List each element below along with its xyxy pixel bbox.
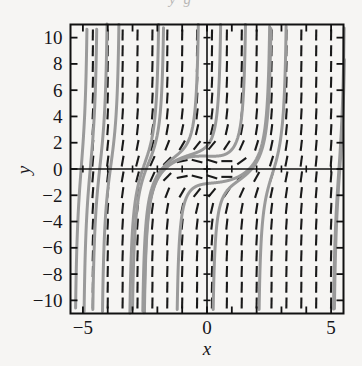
y-tick-label: −4 xyxy=(42,211,63,232)
slope-mark xyxy=(122,108,123,119)
slope-mark xyxy=(182,234,183,245)
slope-mark xyxy=(107,108,108,119)
slope-mark xyxy=(331,171,332,182)
slope-mark xyxy=(181,124,183,135)
slope-mark xyxy=(122,187,123,198)
slope-mark xyxy=(270,187,272,198)
slope-mark xyxy=(286,140,288,151)
slope-mark xyxy=(212,234,213,245)
slope-mark xyxy=(192,176,203,179)
slope-mark xyxy=(207,159,217,162)
slope-mark xyxy=(107,124,108,135)
slope-mark xyxy=(256,203,258,214)
slope-mark xyxy=(270,156,273,167)
slope-mark xyxy=(301,219,302,230)
slope-mark xyxy=(136,156,139,167)
slope-mark xyxy=(331,124,332,135)
y-tick-label: −10 xyxy=(33,290,63,311)
slope-mark xyxy=(196,108,197,119)
slope-mark xyxy=(301,203,302,214)
slope-mark xyxy=(316,187,317,198)
slope-mark xyxy=(197,234,198,245)
slope-mark xyxy=(165,188,169,198)
slope-mark xyxy=(122,124,123,135)
slope-mark xyxy=(271,234,272,245)
slope-mark xyxy=(331,187,332,198)
y-axis-title: y xyxy=(13,165,34,176)
y-tick-label: 8 xyxy=(53,53,63,74)
slope-mark xyxy=(152,93,153,104)
slope-mark xyxy=(226,93,227,104)
slope-mark xyxy=(301,156,303,167)
slope-mark xyxy=(286,203,287,214)
slope-mark xyxy=(122,219,123,230)
slope-mark xyxy=(286,219,287,230)
slope-mark xyxy=(254,172,259,182)
slope-mark xyxy=(255,140,258,151)
slope-mark xyxy=(241,219,242,230)
slope-mark xyxy=(226,234,227,245)
direction-field-figure: y g −10−8−6−4−20246810−505 xy xyxy=(0,0,362,366)
slope-mark xyxy=(137,124,138,135)
slope-mark xyxy=(211,219,212,230)
slope-mark xyxy=(167,219,168,230)
slope-mark xyxy=(285,171,287,182)
slope-mark xyxy=(107,140,108,151)
y-tick-label: 6 xyxy=(53,80,63,101)
slope-mark xyxy=(255,187,258,198)
slope-mark xyxy=(163,173,171,181)
slope-mark xyxy=(122,203,123,214)
slope-mark xyxy=(331,219,332,230)
slope-mark xyxy=(301,171,303,182)
slope-mark xyxy=(301,124,302,135)
slope-mark xyxy=(224,141,230,150)
cropped-top-text-label: y g xyxy=(169,0,193,8)
slope-mark xyxy=(316,171,317,182)
slope-mark xyxy=(196,203,198,214)
slope-mark xyxy=(271,219,272,230)
slope-mark xyxy=(165,140,169,150)
slope-mark xyxy=(122,171,124,182)
slope-mark xyxy=(256,219,257,230)
slope-mark xyxy=(107,156,108,167)
y-tick-label: 0 xyxy=(53,159,63,180)
slope-mark xyxy=(226,219,227,230)
slope-mark xyxy=(271,93,272,104)
slope-mark xyxy=(92,171,93,182)
slope-mark xyxy=(316,140,317,151)
slope-mark xyxy=(196,219,197,230)
slope-mark xyxy=(137,108,138,119)
slope-mark xyxy=(301,187,302,198)
slope-mark xyxy=(316,203,317,214)
y-tick-label: 10 xyxy=(44,27,63,48)
slope-mark xyxy=(182,93,183,104)
slope-mark xyxy=(194,141,201,150)
slope-mark xyxy=(122,234,123,245)
slope-mark xyxy=(167,234,168,245)
slope-mark xyxy=(271,124,272,135)
slope-mark xyxy=(152,203,154,214)
slope-mark xyxy=(301,140,302,151)
slope-mark xyxy=(286,124,287,135)
slope-mark xyxy=(166,203,168,214)
slope-mark xyxy=(256,124,258,135)
slope-mark xyxy=(316,219,317,230)
cropped-top-text: y g xyxy=(0,0,362,12)
slope-mark xyxy=(316,124,317,135)
slope-mark xyxy=(93,219,94,230)
slope-mark xyxy=(122,93,123,104)
slope-mark xyxy=(256,234,257,245)
slope-mark xyxy=(241,234,242,245)
slope-mark xyxy=(239,188,244,198)
slope-mark xyxy=(226,108,227,119)
slope-mark xyxy=(239,140,244,150)
y-tick-label: 2 xyxy=(53,132,63,153)
slope-mark xyxy=(194,188,201,197)
slope-mark xyxy=(237,158,246,164)
slope-mark xyxy=(226,124,228,135)
slope-mark xyxy=(286,187,288,198)
slope-mark xyxy=(211,108,212,119)
slope-mark xyxy=(271,108,272,119)
slope-mark xyxy=(152,234,153,245)
slope-mark xyxy=(256,93,257,104)
